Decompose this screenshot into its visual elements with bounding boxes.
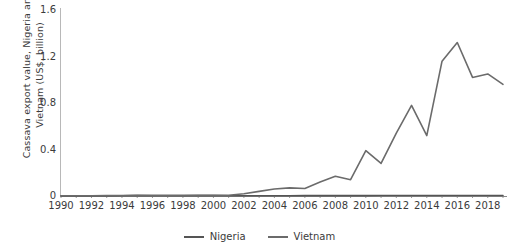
x-axis-tick-label: 2008: [323, 200, 348, 211]
legend-line-icon: [268, 236, 288, 238]
x-axis-tick-label: 1998: [170, 200, 195, 211]
legend-item-nigeria[interactable]: Nigeria: [184, 231, 246, 243]
x-axis-tick-label: 2014: [414, 200, 439, 211]
x-axis-tick-label: 2006: [292, 200, 317, 211]
x-axis-tick-label: 2000: [201, 200, 226, 211]
chart-legend: NigeriaVietnam: [0, 231, 519, 243]
x-axis-tick-label: 1990: [48, 200, 73, 211]
y-axis-tick-label: 1.2: [10, 51, 56, 62]
legend-label: Nigeria: [210, 231, 246, 243]
legend-label: Vietnam: [294, 231, 336, 243]
plot-area: [60, 8, 507, 198]
line-chart: Cassava export value, Nigeria and Vietna…: [0, 0, 519, 252]
x-axis-tick-label: 2002: [231, 200, 256, 211]
x-axis-tick-label: 2010: [353, 200, 378, 211]
plot-svg: [60, 8, 507, 198]
x-axis-tick-label: 1996: [140, 200, 165, 211]
x-axis-tick-labels: 1990199219941996199820002002200420062008…: [60, 200, 507, 216]
y-axis-tick-labels: 00.40.81.21.6: [4, 8, 56, 198]
legend-line-icon: [184, 236, 204, 238]
x-axis-tick-label: 2018: [475, 200, 500, 211]
y-axis-tick-label: 0.4: [10, 144, 56, 155]
y-axis-tick-label: 1.6: [10, 4, 56, 15]
y-axis-tick-label: 0.8: [10, 97, 56, 108]
data-series-group: [61, 43, 503, 196]
x-axis-tick-label: 2012: [384, 200, 409, 211]
x-axis-tick-label: 1994: [109, 200, 134, 211]
x-axis-tick-label: 2016: [445, 200, 470, 211]
x-axis-tick-label: 1992: [79, 200, 104, 211]
series-line-vietnam: [61, 43, 503, 196]
legend-item-vietnam[interactable]: Vietnam: [268, 231, 336, 243]
x-axis-tick-label: 2004: [262, 200, 287, 211]
